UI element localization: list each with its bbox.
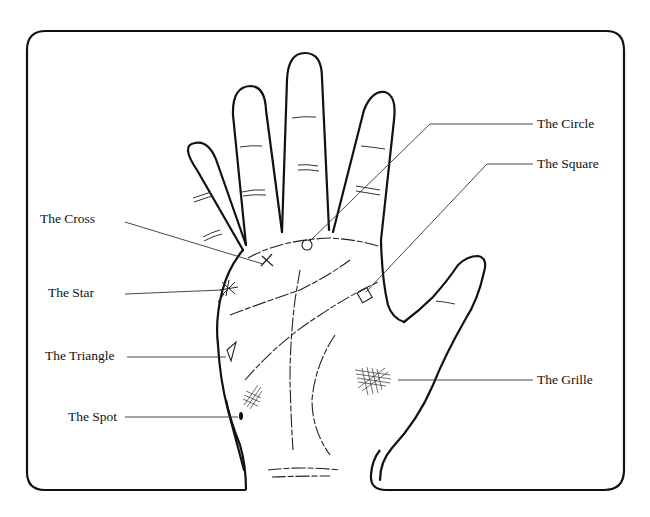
- leader-star: [125, 290, 222, 294]
- marking-grille: [355, 367, 391, 395]
- palm-lines: [230, 238, 378, 477]
- label-grille: The Grille: [537, 372, 593, 388]
- diagram-canvas: [0, 0, 650, 517]
- marking-star: [218, 280, 238, 302]
- leader-square: [366, 164, 533, 292]
- leader-lines: [125, 124, 533, 417]
- hand-outline: [188, 53, 485, 480]
- marking-spot-hatch: [243, 385, 262, 409]
- label-star: The Star: [48, 285, 94, 301]
- marking-square: [357, 288, 372, 303]
- marking-spot: [239, 412, 243, 420]
- label-triangle: The Triangle: [45, 348, 114, 364]
- leader-circle: [310, 124, 533, 241]
- marking-triangle: [227, 342, 236, 361]
- palmistry-diagram: The Cross The Star The Triangle The Spot…: [0, 0, 650, 517]
- label-square: The Square: [537, 156, 599, 172]
- leader-cross: [125, 222, 263, 264]
- label-cross: The Cross: [40, 211, 95, 227]
- label-spot: The Spot: [68, 409, 117, 425]
- marking-circle: [302, 240, 312, 250]
- label-circle: The Circle: [537, 116, 594, 132]
